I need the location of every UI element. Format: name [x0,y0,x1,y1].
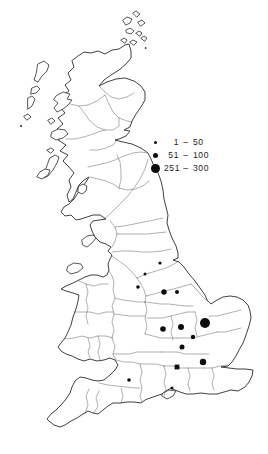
legend-range-separator: – [179,136,193,149]
islet [145,48,146,49]
britain-map [0,0,268,454]
island [121,38,127,43]
island [133,11,140,17]
legend-dot-medium [153,153,158,158]
island [47,148,54,153]
map-symbol-51-100 [161,289,166,294]
legend-range-separator: – [179,149,193,162]
orkney-islands [121,11,147,49]
island [28,96,35,109]
legend-range-high: 300 [193,162,209,175]
island [34,61,49,82]
islet [20,125,21,126]
map-symbol-51-100 [175,365,180,370]
legend-range-separator: – [179,162,193,175]
map-symbol-1-50 [171,387,174,390]
map-symbol-1-50 [158,261,161,264]
island [136,31,142,36]
map-figure: 1 – 50 51 – 100 251 – 300 [0,0,268,454]
map-symbol-1-50 [175,290,179,294]
legend-item-medium: 51 – 100 [146,149,209,162]
legend-dot-small [154,141,157,144]
island [138,20,145,26]
legend-range-low: 1 [164,136,179,149]
island [31,86,40,94]
coastline-group [20,11,253,427]
island [130,40,137,45]
island-islay [37,169,50,179]
island-isle-of-man [82,235,96,247]
legend-range-high: 50 [193,136,204,149]
map-symbol-1-50 [136,285,140,289]
legend-symbol-cell [146,153,164,158]
map-symbol-51-100 [191,335,195,339]
island [48,118,55,124]
island [123,17,132,25]
legend-range-low: 251 [164,162,179,175]
legend-range-high: 100 [193,149,209,162]
island [126,28,134,34]
map-symbol-51-100 [180,345,185,350]
legend-item-small: 1 – 50 [146,136,209,149]
legend-symbol-cell [146,141,164,144]
map-symbol-1-50 [144,273,147,276]
mainland-coastline [47,44,253,427]
island [141,36,147,41]
island-anglesey [67,263,83,274]
map-symbol-251-300 [200,318,210,328]
legend-range-low: 51 [164,149,179,162]
legend-item-large: 251 – 300 [146,162,209,175]
map-symbol-1-50 [127,378,131,382]
legend-dot-large [151,164,160,173]
map-symbol-51-100 [200,359,206,365]
legend: 1 – 50 51 – 100 251 – 300 [146,136,209,175]
hebrides-islands [20,61,49,127]
map-symbol-51-100 [178,324,184,330]
legend-symbol-cell [146,164,164,173]
map-symbol-51-100 [160,326,166,332]
island [24,114,31,120]
